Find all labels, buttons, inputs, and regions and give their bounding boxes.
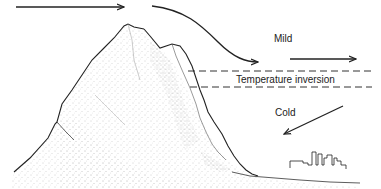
diagram-canvas xyxy=(0,0,381,189)
mild-label: Mild xyxy=(274,34,292,44)
city-skyline xyxy=(290,152,346,169)
wind-arrow-descending xyxy=(152,6,258,62)
cold-label: Cold xyxy=(275,108,296,118)
inversion-diagram: Mild Temperature inversion Cold xyxy=(0,0,381,189)
inversion-label: Temperature inversion xyxy=(236,75,335,85)
